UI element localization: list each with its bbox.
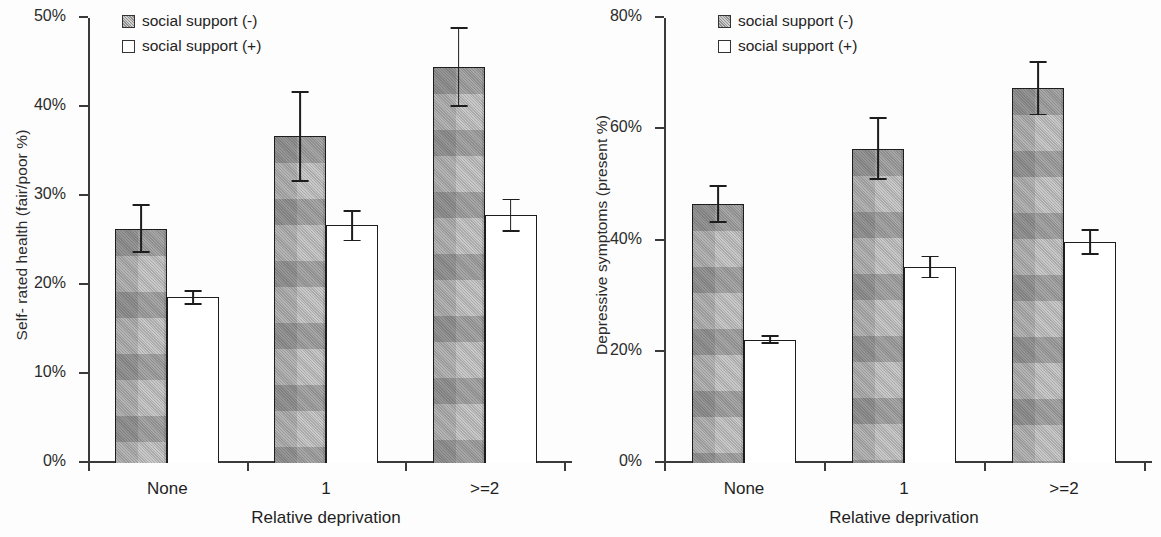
error-bar-cap-top [133, 204, 150, 206]
error-bar-cap-top [450, 27, 467, 29]
bar-slot [904, 18, 956, 463]
bar-social-support-negative[interactable] [274, 136, 326, 463]
error-bar [299, 91, 301, 182]
error-bar-cap-top [869, 117, 886, 119]
error-bar-cap-top [921, 256, 938, 258]
chart-panel-self-rated-health: Self- rated health (fair/poor %) social … [0, 0, 580, 537]
bar-social-support-negative[interactable] [115, 229, 167, 463]
error-bar [769, 335, 771, 344]
y-tick: 0% [79, 461, 88, 463]
error-bar-cap-top [291, 91, 308, 93]
y-tick-label: 40% [610, 230, 642, 248]
error-bar [192, 290, 194, 304]
bar-social-support-negative[interactable] [433, 67, 485, 463]
bar-group [88, 18, 247, 463]
legend-swatch-open-icon [122, 40, 135, 53]
y-tick: 20% [655, 350, 664, 352]
x-axis-title-right: Relative deprivation [664, 508, 1144, 528]
x-tick [564, 463, 566, 471]
x-tick-label: None [88, 479, 247, 499]
error-bar-cap-bottom [761, 342, 778, 344]
y-tick: 10% [79, 372, 88, 374]
bar-group [247, 18, 406, 463]
x-tick [405, 463, 407, 471]
bar-group [984, 18, 1144, 463]
legend-item-social-support-positive: social support (+) [122, 37, 261, 55]
y-tick-label: 60% [610, 118, 642, 136]
x-tick-label: 1 [824, 479, 984, 499]
legend-swatch-filled-icon [718, 15, 731, 28]
error-bar-cap-bottom [1081, 253, 1098, 255]
y-tick-label: 50% [34, 7, 66, 25]
y-tick: 50% [79, 16, 88, 18]
error-bar-cap-top [343, 210, 360, 212]
y-tick: 30% [79, 194, 88, 196]
legend-label: social support (-) [738, 12, 853, 30]
x-tick-label: 1 [247, 479, 406, 499]
bar-slot [485, 18, 537, 463]
legend-label: social support (-) [142, 12, 257, 30]
x-tick-label: >=2 [405, 479, 564, 499]
bar-groups-right [664, 18, 1144, 463]
x-tick [984, 463, 986, 471]
bar-social-support-positive[interactable] [744, 340, 796, 463]
error-bar-cap-top [761, 335, 778, 337]
y-tick: 20% [79, 283, 88, 285]
error-bar-cap-bottom [343, 240, 360, 242]
x-tick [88, 463, 90, 471]
legend-right: social support (-) social support (+) [718, 12, 857, 62]
error-bar-cap-bottom [450, 105, 467, 107]
x-tick [1144, 463, 1146, 471]
bar-slot [274, 18, 326, 463]
error-bar-cap-bottom [869, 178, 886, 180]
bar-slot [1064, 18, 1116, 463]
x-tick-label: None [664, 479, 824, 499]
y-tick-label: 80% [610, 7, 642, 25]
y-tick: 0% [655, 461, 664, 463]
error-bar-cap-bottom [185, 303, 202, 305]
error-bar-cap-top [709, 185, 726, 187]
legend-label: social support (+) [142, 37, 261, 55]
error-bar [458, 27, 460, 107]
y-tick-label: 0% [43, 452, 66, 470]
bar-social-support-positive[interactable] [326, 225, 378, 463]
error-bar [1037, 61, 1039, 115]
bar-social-support-negative[interactable] [692, 204, 744, 463]
error-bar [717, 185, 719, 222]
error-bar [351, 210, 353, 241]
bar-slot [115, 18, 167, 463]
error-bar-cap-top [1029, 61, 1046, 63]
error-bar-cap-top [1081, 229, 1098, 231]
bar-social-support-positive[interactable] [167, 297, 219, 463]
error-bar [929, 256, 931, 279]
bar-slot [692, 18, 744, 463]
bar-group [405, 18, 564, 463]
bar-group [664, 18, 824, 463]
legend-swatch-filled-icon [122, 15, 135, 28]
figure-container: Self- rated health (fair/poor %) social … [0, 0, 1161, 537]
bar-groups-left [88, 18, 564, 463]
bar-social-support-positive[interactable] [485, 215, 537, 463]
legend-label: social support (+) [738, 37, 857, 55]
plot-area-right: 0%20%40%60%80% [664, 18, 1144, 463]
error-bar [140, 204, 142, 253]
error-bar-cap-bottom [502, 230, 519, 232]
error-bar-cap-bottom [291, 180, 308, 182]
bar-group [824, 18, 984, 463]
x-axis-labels-right: None1>=2 [664, 479, 1144, 499]
y-tick-label: 10% [34, 363, 66, 381]
chart-panel-depressive-symptoms: Depressive symptoms (present %) social s… [580, 0, 1161, 537]
error-bar-cap-bottom [921, 277, 938, 279]
bar-social-support-positive[interactable] [904, 267, 956, 463]
bar-social-support-negative[interactable] [852, 149, 904, 463]
y-tick: 40% [655, 239, 664, 241]
y-tick: 80% [655, 16, 664, 18]
bar-slot [326, 18, 378, 463]
legend-item-social-support-negative: social support (-) [718, 12, 857, 30]
bar-social-support-negative[interactable] [1012, 88, 1064, 463]
error-bar [1089, 229, 1091, 255]
bar-social-support-positive[interactable] [1064, 242, 1116, 463]
y-tick-label: 40% [34, 96, 66, 114]
error-bar [510, 199, 512, 232]
x-axis-labels-left: None1>=2 [88, 479, 564, 499]
